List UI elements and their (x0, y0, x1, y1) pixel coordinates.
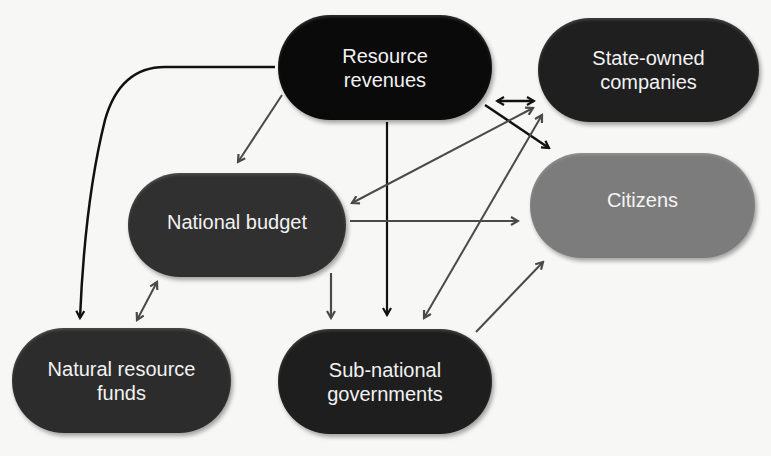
node-national-budget: National budget (128, 173, 346, 277)
node-sub-national-governments: Sub-national governments (278, 329, 492, 434)
edge-revenues-budget (238, 95, 282, 162)
node-label: Resource revenues (342, 44, 428, 92)
edge-budget-nrf (137, 282, 157, 320)
node-citizens: Citizens (530, 153, 755, 258)
resource-flow-diagram: Resource revenues State-owned companies … (0, 0, 771, 456)
node-resource-revenues: Resource revenues (278, 15, 492, 120)
edge-subnational-citizens (476, 262, 543, 332)
node-state-owned-companies: State-owned companies (538, 18, 759, 122)
edge-subnational-stateowned (424, 115, 542, 318)
node-natural-resource-funds: Natural resource funds (12, 328, 231, 433)
edge-revenues-citizens (485, 105, 549, 148)
node-label: Citizens (607, 188, 678, 212)
node-label: National budget (167, 210, 307, 234)
edge-budget-stateowned (352, 108, 533, 203)
node-label: Sub-national governments (327, 358, 443, 406)
node-label: State-owned companies (592, 46, 704, 94)
node-label: Natural resource funds (48, 357, 196, 405)
